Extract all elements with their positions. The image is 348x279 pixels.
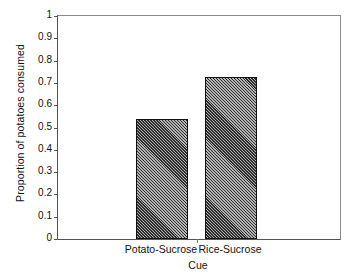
x-axis-tick-label: Rice-Sucrose — [160, 243, 300, 256]
y-axis-tick-mark — [54, 194, 58, 195]
y-axis-tick-mark — [54, 61, 58, 62]
y-axis-tick-mark — [54, 172, 58, 173]
y-axis-tick-mark — [54, 217, 58, 218]
y-axis-tick-label: 0.8 — [18, 55, 52, 65]
bar — [205, 77, 257, 239]
y-axis-tick-mark — [54, 38, 58, 39]
y-axis-tick-mark — [54, 105, 58, 106]
y-axis-tick-label: 0.5 — [18, 122, 52, 132]
y-axis-tick-mark — [54, 150, 58, 151]
y-axis-tick-label: 1 — [18, 10, 52, 20]
bar-chart-figure: Proportion of potatoes consumed 00.10.20… — [0, 0, 348, 279]
y-axis-tick-labels: 00.10.20.30.40.50.60.70.80.91 — [18, 8, 52, 246]
bar — [136, 119, 188, 239]
x-axis-tick-labels: Potato-SucroseRice-Sucrose — [57, 243, 339, 257]
y-axis-tick-label: 0.9 — [18, 32, 52, 42]
y-axis-tick-mark — [54, 128, 58, 129]
y-axis-tick-mark — [54, 239, 58, 240]
y-axis-tick-mark — [54, 83, 58, 84]
y-axis-tick-label: 0.4 — [18, 144, 52, 154]
y-axis-tick-label: 0.7 — [18, 77, 52, 87]
y-axis-tick-label: 0.1 — [18, 211, 52, 221]
plot-area — [57, 15, 341, 240]
y-axis-tick-mark — [54, 16, 58, 17]
y-axis-tick-label: 0.6 — [18, 99, 52, 109]
y-axis-tick-label: 0.3 — [18, 166, 52, 176]
x-axis-title: Cue — [57, 259, 339, 272]
y-axis-tick-label: 0.2 — [18, 188, 52, 198]
y-axis-tick-label: 0 — [18, 233, 52, 243]
